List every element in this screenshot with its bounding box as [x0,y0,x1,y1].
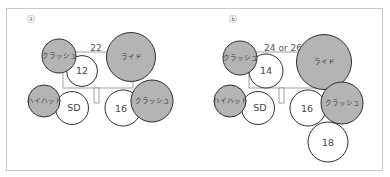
kick-pedal [279,88,284,103]
hihat-label: ハイハット [27,97,62,105]
bass-drum-size-label: 22 [90,43,101,53]
ride-label: ライド [314,58,335,66]
tom-12-label: 12 [76,65,88,76]
drum-setup-diagram: ⓐ 22 12 クラッシュ ライド SD ハイハット 16 クラッシュ ⓑ [0,0,390,177]
panel-a-label: ⓐ [27,15,35,24]
crash-right-label: クラッシュ [325,99,360,107]
ride-label: ライド [121,53,142,61]
snare-label: SD [67,102,80,113]
crash-left-label: クラッシュ [42,52,77,60]
floor-tom-18-label: 18 [322,137,334,148]
crash-right-label: クラッシュ [135,97,170,105]
kick-pedal [94,88,99,103]
crash-left-label: クラッシュ [223,54,258,62]
hihat-label: ハイハット [213,97,248,105]
panel-b-label: ⓑ [229,15,237,24]
tom-14-label: 14 [260,65,272,76]
bass-drum-size-label: 24 or 26 [264,43,302,53]
floor-tom-16-label: 16 [301,103,313,114]
snare-label: SD [253,102,266,113]
floor-tom-16-label: 16 [115,103,127,114]
panel-b: ⓑ 24 or 26 14 クラッシュ ライド SD ハイハット 18 16 ク… [213,15,364,162]
panel-a: ⓐ 22 12 クラッシュ ライド SD ハイハット 16 クラッシュ [27,15,174,126]
